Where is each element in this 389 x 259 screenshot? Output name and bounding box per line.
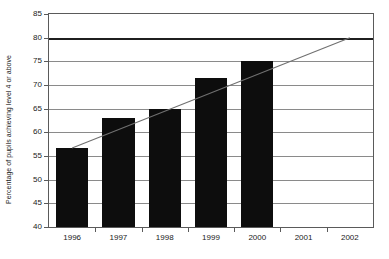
x-tick-label-1996: 1996 bbox=[52, 233, 92, 242]
y-tick-label: 85 bbox=[20, 10, 42, 18]
x-tick-mark bbox=[280, 228, 281, 232]
y-tick-label: 75 bbox=[20, 57, 42, 65]
x-tick-label-2002: 2002 bbox=[330, 233, 370, 242]
x-tick-label-1997: 1997 bbox=[98, 233, 138, 242]
chart-container: Percentage of pupils achieving level 4 o… bbox=[0, 0, 389, 259]
x-tick-mark bbox=[142, 228, 143, 232]
x-tick-mark bbox=[327, 228, 328, 232]
x-tick-label-1998: 1998 bbox=[145, 233, 185, 242]
plot-area bbox=[48, 13, 374, 228]
x-tick-mark bbox=[188, 228, 189, 232]
trend-line bbox=[49, 14, 373, 227]
x-tick-mark bbox=[234, 228, 235, 232]
y-tick-label: 55 bbox=[20, 152, 42, 160]
y-tick-label: 40 bbox=[20, 223, 42, 231]
x-tick-label-2000: 2000 bbox=[237, 233, 277, 242]
y-tick-label: 70 bbox=[20, 81, 42, 89]
y-tick-label: 45 bbox=[20, 199, 42, 207]
y-tick-label: 65 bbox=[20, 105, 42, 113]
y-axis-title: Percentage of pupils achieving level 4 o… bbox=[0, 0, 16, 259]
x-tick-label-1999: 1999 bbox=[191, 233, 231, 242]
x-tick-mark bbox=[95, 228, 96, 232]
y-tick-label: 60 bbox=[20, 128, 42, 136]
x-tick-label-2001: 2001 bbox=[284, 233, 324, 242]
y-tick-label: 50 bbox=[20, 176, 42, 184]
y-tick-label: 80 bbox=[20, 34, 42, 42]
